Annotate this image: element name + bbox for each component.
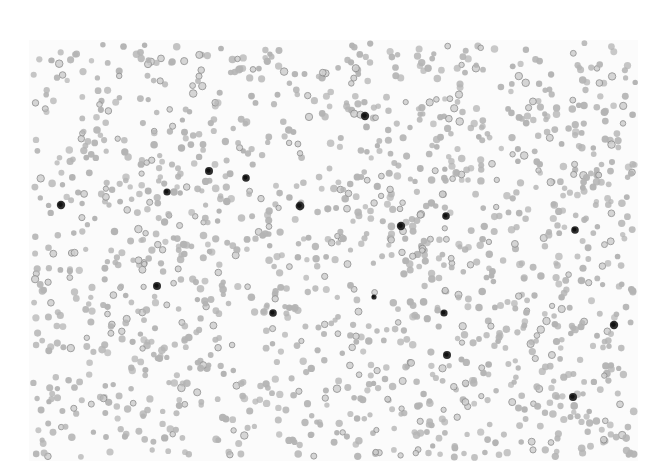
red-blood-cell (596, 172, 602, 178)
red-blood-cell (98, 191, 105, 198)
red-blood-cell (458, 155, 465, 162)
red-blood-cell (31, 300, 37, 306)
red-blood-cell (513, 358, 518, 363)
white-blood-cell (442, 212, 450, 220)
red-blood-cell (299, 338, 304, 343)
red-blood-cell (332, 317, 337, 322)
red-blood-cell (398, 411, 403, 416)
red-blood-cell (301, 419, 308, 426)
white-blood-cell (205, 167, 213, 175)
red-blood-cell (129, 339, 135, 345)
red-blood-cell (384, 201, 391, 208)
red-blood-cell (219, 286, 227, 294)
red-blood-cell (593, 202, 599, 208)
red-blood-cell (623, 304, 630, 311)
red-blood-cell (531, 292, 537, 298)
red-blood-cell (400, 200, 406, 206)
red-blood-cell (229, 342, 235, 348)
red-blood-cell (395, 163, 401, 169)
red-blood-cell (385, 137, 392, 144)
red-blood-cell (263, 400, 270, 407)
red-blood-cell (319, 69, 326, 76)
red-blood-cell (117, 181, 123, 187)
red-blood-cell (205, 220, 211, 226)
red-blood-cell (245, 284, 251, 290)
red-blood-cell (496, 213, 502, 219)
red-blood-cell (340, 187, 346, 193)
red-blood-cell (410, 253, 416, 259)
red-blood-cell (324, 205, 331, 212)
red-blood-cell (437, 452, 443, 458)
blood-smear-micrograph (0, 0, 668, 474)
red-blood-cell (265, 257, 273, 265)
red-blood-cell (86, 301, 91, 306)
red-blood-cell (347, 282, 354, 289)
red-blood-cell (37, 175, 44, 182)
red-blood-cell (375, 104, 381, 110)
red-blood-cell (386, 170, 393, 177)
red-blood-cell (147, 199, 153, 205)
red-blood-cell (119, 335, 126, 342)
red-blood-cell (86, 360, 93, 367)
red-blood-cell (524, 112, 531, 119)
red-blood-cell (389, 406, 395, 412)
red-blood-cell (459, 340, 464, 345)
red-blood-cell (86, 169, 93, 176)
red-blood-cell (374, 427, 379, 432)
red-blood-cell (532, 355, 538, 361)
red-blood-cell (484, 436, 491, 443)
red-blood-cell (140, 120, 146, 126)
red-blood-cell (59, 72, 66, 79)
red-blood-cell (372, 290, 378, 296)
red-blood-cell (360, 349, 366, 355)
red-blood-cell (224, 157, 230, 163)
red-blood-cell (32, 251, 38, 257)
red-blood-cell (542, 311, 548, 317)
red-blood-cell (335, 179, 341, 185)
red-blood-cell (593, 417, 601, 425)
red-blood-cell (140, 336, 147, 343)
red-blood-cell (580, 185, 586, 191)
red-blood-cell (31, 72, 37, 78)
white-blood-cell (571, 226, 579, 234)
red-blood-cell (289, 375, 295, 381)
red-blood-cell (156, 215, 162, 221)
red-blood-cell (451, 383, 458, 390)
red-blood-cell (534, 333, 540, 339)
red-blood-cell (72, 52, 78, 58)
red-blood-cell (292, 71, 298, 77)
red-blood-cell (321, 321, 327, 327)
red-blood-cell (417, 212, 424, 219)
red-blood-cell (426, 151, 433, 158)
red-blood-cell (59, 408, 65, 414)
red-blood-cell (115, 136, 120, 141)
red-blood-cell (109, 187, 115, 193)
red-blood-cell (322, 395, 328, 401)
red-blood-cell (128, 386, 133, 391)
red-blood-cell (216, 208, 221, 213)
red-blood-cell (235, 140, 241, 146)
red-blood-cell (105, 60, 111, 66)
red-blood-cell (440, 378, 446, 384)
red-blood-cell (83, 247, 88, 252)
red-blood-cell (172, 341, 178, 347)
red-blood-cell (332, 256, 339, 263)
red-blood-cell (160, 268, 166, 274)
red-blood-cell (364, 177, 370, 183)
red-blood-cell (256, 66, 262, 72)
white-blood-cell (153, 282, 161, 290)
red-blood-cell (361, 99, 367, 105)
red-blood-cell (202, 278, 209, 285)
red-blood-cell (479, 117, 486, 124)
red-blood-cell (34, 396, 39, 401)
red-blood-cell (620, 121, 626, 127)
red-blood-cell (398, 453, 403, 458)
red-blood-cell (389, 252, 395, 258)
red-blood-cell (218, 363, 224, 369)
red-blood-cell (572, 121, 579, 128)
red-blood-cell (92, 216, 97, 221)
red-blood-cell (123, 293, 129, 299)
red-blood-cell (625, 175, 630, 180)
red-blood-cell (504, 449, 511, 456)
red-blood-cell (595, 224, 600, 229)
